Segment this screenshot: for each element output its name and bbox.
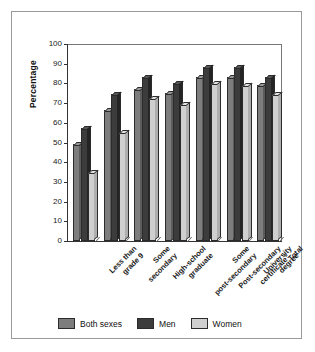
bar-rect	[265, 77, 272, 241]
bar-side-face	[248, 82, 252, 240]
bar-rect	[134, 89, 141, 241]
bar-rect	[73, 144, 80, 241]
y-tick-label: 60	[53, 117, 62, 128]
bar-rect	[149, 98, 156, 241]
legend-label: Both sexes	[80, 319, 122, 329]
y-tick-label: 70	[53, 97, 62, 108]
bar-group	[165, 44, 196, 241]
bar-rect	[234, 67, 241, 241]
legend-item-men[interactable]: Men	[137, 318, 176, 329]
x-tick-label: Less thangrade 9	[107, 244, 145, 282]
x-axis-labels: Less thangrade 9SomesecondaryHigh-school…	[67, 244, 282, 316]
legend-label: Women	[213, 319, 242, 329]
bar-rect	[119, 132, 126, 241]
bar-group	[257, 44, 288, 241]
bar-side-face	[186, 102, 190, 240]
bar-rect	[196, 77, 203, 241]
bar-rect	[104, 110, 111, 241]
bar-groups	[68, 44, 282, 241]
bar-rect	[88, 172, 95, 241]
bar-group	[134, 44, 165, 241]
figure-container: Percentage 0102030405060708090100 Less t…	[0, 0, 315, 352]
bar-side-face	[125, 130, 129, 240]
bar-rect	[180, 104, 187, 241]
legend-item-both-sexes[interactable]: Both sexes	[58, 318, 122, 329]
both-sexes-swatch	[58, 318, 75, 329]
y-tick-label: 0	[58, 235, 62, 246]
bar-rect	[242, 85, 249, 241]
y-tick-label: 80	[53, 77, 62, 88]
bar-side-face	[155, 96, 159, 240]
legend-label: Men	[159, 319, 176, 329]
bar-rect	[211, 83, 218, 241]
bar-side-face	[94, 170, 98, 240]
y-axis-title: Percentage	[28, 60, 38, 108]
y-tick-label: 50	[53, 137, 62, 148]
bar-group	[73, 44, 104, 241]
women-swatch	[191, 318, 208, 329]
y-tick-label: 100	[49, 38, 62, 49]
men-swatch	[137, 318, 154, 329]
bar-rect	[165, 93, 172, 242]
chart-legend: Both sexesMenWomen	[58, 318, 250, 329]
bar-rect	[111, 94, 118, 241]
bar-side-face	[217, 80, 221, 240]
y-tick-label: 30	[53, 176, 62, 187]
bar-group	[196, 44, 227, 241]
bar-group	[227, 44, 258, 241]
bar-rect	[203, 67, 210, 241]
bar-side-face	[278, 92, 282, 240]
bar-rect	[257, 85, 264, 241]
chart-frame: Percentage 0102030405060708090100 Less t…	[11, 11, 302, 339]
x-tick-label: Somesecondary	[139, 244, 179, 284]
bar-rect	[173, 83, 180, 241]
bar-rect	[81, 128, 88, 241]
y-tick-label: 20	[53, 196, 62, 207]
bar-rect	[272, 94, 279, 241]
bar-group	[104, 44, 135, 241]
y-tick-label: 90	[53, 58, 62, 69]
y-tick-mark	[64, 241, 68, 242]
bar-rect	[142, 77, 149, 241]
plot-area: 0102030405060708090100	[67, 44, 282, 242]
legend-item-women[interactable]: Women	[191, 318, 242, 329]
y-tick-label: 10	[53, 215, 62, 226]
y-tick-label: 40	[53, 156, 62, 167]
bar-rect	[227, 77, 234, 241]
